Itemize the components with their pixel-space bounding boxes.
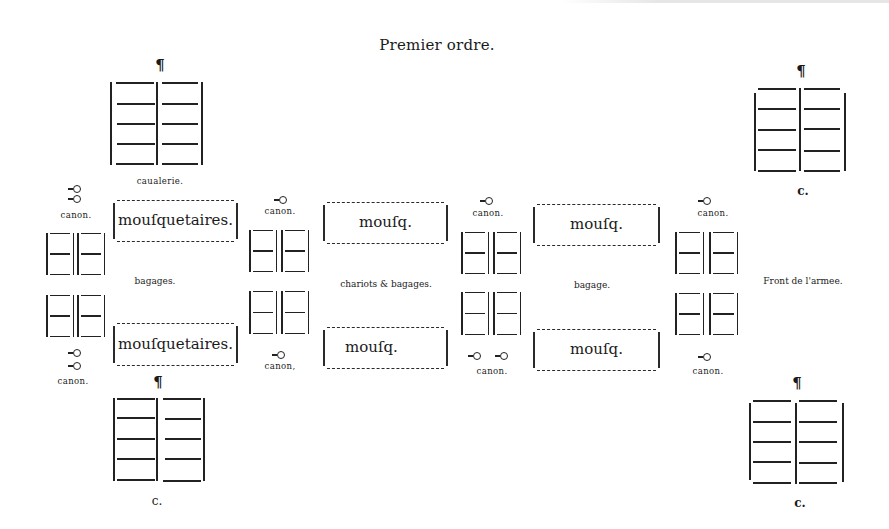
musketeer-box-right-bottom: mouſq. [533,329,660,371]
pilcrow-marker: ¶ [153,375,163,390]
unit-block [461,292,521,335]
cannon-icon [68,349,82,357]
unit-block [46,295,106,337]
cannon-icon [68,195,82,203]
cavalry-block-top-right [754,88,846,171]
musketeer-box-center-bottom: mouſq. [323,327,448,369]
scan-edge-shadow [560,0,889,3]
unit-block [46,233,106,275]
cavalry-block-top-left [110,82,204,165]
unit-block [675,293,738,335]
baggage-label-center: chariots & bagages. [340,279,432,289]
baggage-label-right: bagage. [574,280,610,290]
cannon-label: canon. [265,206,296,216]
cavalry-label-bottom-right: c. [794,496,805,510]
cannon-icon [698,353,712,361]
cannon-icon [495,352,509,360]
unit-block [249,230,309,272]
cannon-icon [68,362,82,370]
cannon-icon [468,352,482,360]
cannon-icon [480,197,494,205]
cavalry-block-bottom-right [749,400,844,484]
musketeer-box-center-top: mouſq. [323,202,448,244]
cannon-label: canon, [265,361,296,371]
cavalry-label-bottom-left: c. [152,494,163,508]
cavalry-block-bottom-left [113,398,205,481]
baggage-label-left: bagages. [135,276,176,286]
cavalry-label-top-right: c. [797,184,808,198]
cannon-icon [274,196,288,204]
cannon-label: canon. [58,376,89,386]
army-front-label: Front de l'armee. [763,276,842,286]
musketeer-box-left-top: mouſquetaires. [113,200,238,242]
pilcrow-marker: ¶ [155,58,165,73]
cannon-label: canon. [698,208,729,218]
cannon-label: canon. [473,208,504,218]
cavalry-label-top-left: caualerie. [137,176,184,186]
cannon-icon [68,185,82,193]
cannon-label: canon. [61,210,92,220]
unit-block [675,232,738,274]
cannon-icon [698,197,712,205]
cannon-icon [272,351,286,359]
cannon-label: canon. [477,366,508,376]
unit-block [461,232,521,274]
musketeer-box-left-bottom: mouſquetaires. [113,323,238,366]
pilcrow-marker: ¶ [792,376,802,391]
pilcrow-marker: ¶ [796,64,806,79]
unit-block [249,291,309,334]
cannon-label: canon. [693,366,724,376]
musketeer-box-right-top: mouſq. [533,204,660,246]
diagram-title: Premier ordre. [379,36,494,54]
